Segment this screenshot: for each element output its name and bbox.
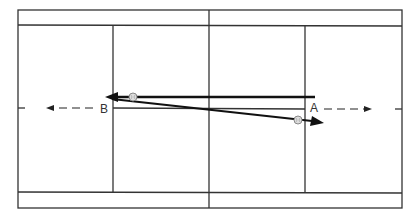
arrowhead-right-icon	[364, 106, 372, 112]
arrowhead-left-icon	[46, 105, 54, 111]
player-a-label: A	[310, 101, 318, 115]
doubles-sideline-bottom	[18, 192, 402, 193]
arrowhead-shot-right-icon	[310, 116, 324, 126]
tennis-ball-icon	[294, 116, 302, 124]
player-b-label: B	[100, 102, 108, 116]
tennis-ball-icon	[129, 93, 137, 101]
shot-b-to-a	[112, 99, 312, 121]
doubles-sideline-top	[18, 25, 402, 26]
tennis-court-diagram: B A	[0, 0, 417, 215]
